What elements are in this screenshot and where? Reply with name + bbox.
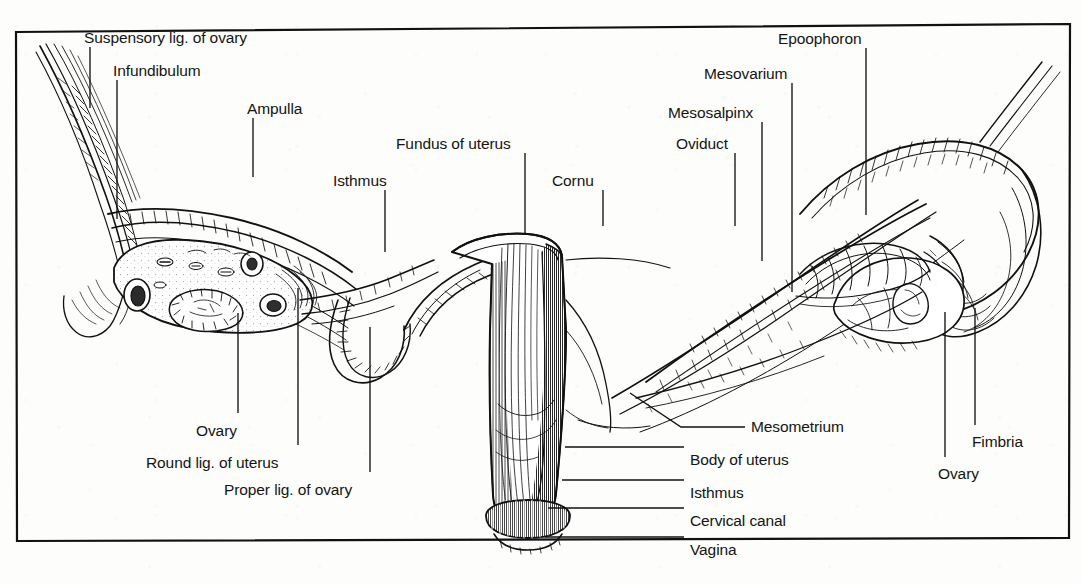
label-proper-ligament-of-ovary: Proper lig. of ovary [224,482,352,498]
ovary-left-structure [114,240,317,333]
leader-mesometrium [630,393,745,427]
label-vagina: Vagina [690,542,737,558]
label-isthmus-bottom: Isthmus [690,485,744,501]
label-mesometrium: Mesometrium [751,419,844,435]
label-infundibulum: Infundibulum [113,63,201,79]
label-oviduct: Oviduct [676,136,728,152]
anatomical-figure: Suspensory lig. of ovaryInfundibulumAmpu… [0,0,1082,584]
broad-ligament-left-view [566,258,670,432]
label-epoophoron: Epoophoron [778,31,861,47]
label-suspensory-ligament-of-ovary: Suspensory lig. of ovary [84,30,247,46]
label-ampulla: Ampulla [247,101,302,117]
label-round-ligament-of-uterus: Round lig. of uterus [146,455,278,471]
ovarian-vessels [980,62,1060,152]
label-body-of-uterus: Body of uterus [690,452,789,468]
label-ovary-left: Ovary [196,423,237,439]
label-fimbria: Fimbria [972,434,1023,450]
label-isthmus-top: Isthmus [333,173,387,189]
label-mesovarium: Mesovarium [704,66,787,82]
label-ovary-right: Ovary [938,466,979,482]
label-cornu: Cornu [552,173,594,189]
label-cervical-canal: Cervical canal [690,513,786,529]
uterus-body-structure [452,234,570,554]
anatomy-illustration [0,0,1082,584]
label-fundus-of-uterus: Fundus of uterus [396,136,511,152]
isthmus-structure [300,260,438,324]
dorsal-view-group [36,44,670,554]
label-mesosalpinx: Mesosalpinx [668,105,753,121]
